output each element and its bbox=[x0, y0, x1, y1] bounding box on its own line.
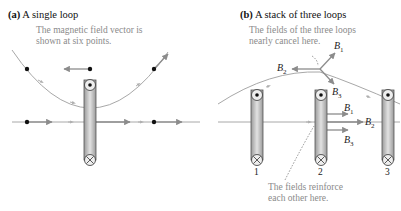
panel-a-title: (a) A single loop bbox=[8, 9, 78, 20]
panel-b-vectors-top bbox=[292, 53, 335, 84]
panel-b-field-lines bbox=[218, 72, 400, 122]
loop-label-3: 3 bbox=[385, 167, 390, 177]
vector-label-b3-top: B3 bbox=[332, 86, 342, 100]
panel-b-note-bottom: The fields reinforce each other here. bbox=[268, 182, 343, 204]
panel-a-wire-loop bbox=[84, 80, 96, 166]
vector-label-b1-top: B1 bbox=[334, 40, 344, 54]
panel-b-title: (b) A stack of three loops bbox=[240, 9, 346, 20]
loop-label-1: 1 bbox=[254, 167, 259, 177]
vector-label-b1-bottom: B1 bbox=[344, 102, 354, 116]
panel-a-note: The magnetic field vector is shown at si… bbox=[36, 25, 143, 47]
vector-label-b2-top: B2 bbox=[277, 62, 287, 76]
loop-label-2: 2 bbox=[318, 167, 323, 177]
vector-label-b2-bottom: B2 bbox=[365, 116, 375, 130]
panel-a-field-vectors bbox=[27, 54, 182, 122]
vector-label-b3-bottom: B3 bbox=[344, 134, 354, 148]
panel-b-dotted-pointers bbox=[285, 56, 318, 180]
panel-a-field-lines bbox=[12, 50, 200, 122]
